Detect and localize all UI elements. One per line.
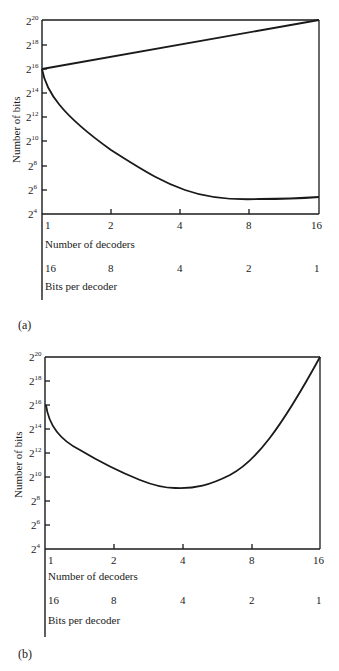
y-tick-labels: 220 218 216 214 212 210 28 26 24 xyxy=(29,350,42,555)
x-ticks xyxy=(111,209,249,214)
svg-text:16: 16 xyxy=(45,262,57,274)
svg-text:16: 16 xyxy=(311,219,323,231)
y-axis-label: Number of bits xyxy=(10,96,22,163)
svg-text:214: 214 xyxy=(29,422,42,435)
svg-text:16: 16 xyxy=(313,554,325,566)
svg-text:220: 220 xyxy=(29,350,42,363)
svg-text:210: 210 xyxy=(26,134,39,147)
x2-tick-labels: 16 8 4 2 1 xyxy=(45,262,320,274)
svg-text:2: 2 xyxy=(108,219,114,231)
svg-text:4: 4 xyxy=(177,219,183,231)
svg-text:1: 1 xyxy=(45,219,51,231)
svg-text:216: 216 xyxy=(29,398,42,411)
svg-text:26: 26 xyxy=(31,518,41,531)
svg-text:8: 8 xyxy=(246,219,252,231)
y-tick-labels: 220 218 216 214 212 210 28 26 24 xyxy=(26,14,39,220)
svg-text:24: 24 xyxy=(31,542,41,555)
x-ticks xyxy=(114,544,252,549)
y-axis-label: Number of bits xyxy=(12,431,24,498)
x2-tick-labels: 16 8 4 2 1 xyxy=(48,594,322,606)
svg-text:4: 4 xyxy=(180,554,186,566)
svg-text:218: 218 xyxy=(29,374,42,387)
svg-text:2: 2 xyxy=(249,594,255,606)
svg-text:210: 210 xyxy=(29,470,42,483)
svg-text:212: 212 xyxy=(29,446,42,459)
x1-axis-label: Number of decoders xyxy=(45,238,135,250)
y-ticks xyxy=(45,381,50,525)
svg-text:2: 2 xyxy=(111,554,117,566)
x1-tick-labels: 1 2 4 8 16 xyxy=(45,219,323,231)
svg-text:214: 214 xyxy=(26,86,39,99)
svg-text:8: 8 xyxy=(111,594,117,606)
svg-text:28: 28 xyxy=(28,159,38,172)
svg-text:220: 220 xyxy=(26,14,39,27)
svg-text:8: 8 xyxy=(249,554,255,566)
panel-label-a: (a) xyxy=(18,318,31,333)
svg-text:1: 1 xyxy=(316,594,322,606)
svg-text:16: 16 xyxy=(48,594,60,606)
chart-a: 220 218 216 214 212 210 28 26 24 Number … xyxy=(0,0,339,330)
y-ticks xyxy=(42,45,47,190)
svg-text:4: 4 xyxy=(180,594,186,606)
chart-b-plot: 220 218 216 214 212 210 28 26 24 Number … xyxy=(0,335,339,671)
svg-text:26: 26 xyxy=(28,183,38,196)
svg-text:4: 4 xyxy=(177,262,183,274)
series-curve xyxy=(46,357,320,488)
series-upper-line xyxy=(42,20,319,69)
x2-axis-label: Bits per decoder xyxy=(45,280,117,292)
svg-text:28: 28 xyxy=(31,494,41,507)
svg-text:24: 24 xyxy=(28,207,38,220)
svg-text:1: 1 xyxy=(48,554,54,566)
svg-text:218: 218 xyxy=(26,38,39,51)
svg-text:216: 216 xyxy=(26,62,39,75)
panel-label-b: (b) xyxy=(18,647,32,662)
svg-text:8: 8 xyxy=(108,262,114,274)
x1-axis-label: Number of decoders xyxy=(48,570,138,582)
x1-tick-labels: 1 2 4 8 16 xyxy=(48,554,325,566)
series-lower-curve xyxy=(42,69,319,199)
svg-text:2: 2 xyxy=(246,262,252,274)
chart-b: 220 218 216 214 212 210 28 26 24 Number … xyxy=(0,335,339,671)
x2-axis-label: Bits per decoder xyxy=(48,614,120,626)
svg-text:212: 212 xyxy=(26,110,39,123)
svg-text:1: 1 xyxy=(314,262,320,274)
chart-a-plot: 220 218 216 214 212 210 28 26 24 Number … xyxy=(0,0,339,330)
